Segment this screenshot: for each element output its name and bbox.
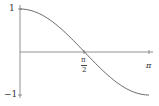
y-tick-label-minus-1: −1	[4, 90, 17, 99]
x-tick-label-half-pi-den: 2	[82, 67, 86, 74]
x-tick-label-pi: π	[146, 62, 151, 70]
cosine-plot	[0, 0, 159, 106]
x-tick-label-half-pi-num: π	[81, 57, 86, 64]
y-tick-label-1: 1	[9, 4, 15, 13]
